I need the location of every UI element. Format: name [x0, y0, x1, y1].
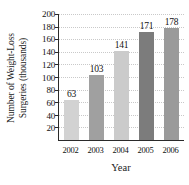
- y-axis-tick-label: 160: [42, 35, 55, 44]
- y-axis-tick-labels: 20018016014012010080604020: [33, 14, 56, 141]
- bar: 103: [89, 75, 105, 140]
- x-axis-title: Year: [58, 162, 184, 174]
- bar-series: 63103141171178: [59, 14, 184, 140]
- bar-value-label: 141: [115, 40, 129, 50]
- y-axis-tick-label: 200: [42, 10, 55, 19]
- y-axis-title: Number of Weight-Loss Surgeries (thousan…: [0, 8, 34, 148]
- plot-area: 63103141171178: [58, 14, 184, 141]
- bar-value-label: 178: [165, 17, 179, 27]
- x-axis-tick-label: 2004: [113, 145, 129, 155]
- bar: 141: [114, 51, 130, 140]
- x-axis-tick-label: 2003: [88, 145, 104, 155]
- y-axis-title-line2: Surgeries (thousands): [17, 33, 29, 123]
- bar: 178: [164, 28, 180, 140]
- bar: 63: [64, 100, 80, 140]
- y-axis-tick-label: 140: [42, 48, 55, 57]
- y-axis-tick-label: 40: [46, 111, 55, 120]
- bar-value-label: 103: [90, 64, 104, 74]
- x-axis-tick-label: 2006: [163, 145, 179, 155]
- x-axis-tick-label: 2002: [63, 145, 79, 155]
- bar-value-label: 171: [140, 21, 154, 31]
- y-axis-tick-label: 80: [46, 86, 55, 95]
- y-axis-tick-label: 120: [42, 60, 55, 69]
- y-axis-title-line1: Number of Weight-Loss: [6, 33, 18, 123]
- x-axis-tick-label: 2005: [138, 145, 154, 155]
- y-axis-tick-label: 100: [42, 73, 55, 82]
- bar-value-label: 63: [67, 89, 76, 99]
- y-axis-tick-label: 180: [42, 22, 55, 31]
- y-axis-tick-label: 20: [46, 124, 55, 133]
- bar-chart-figure: Number of Weight-Loss Surgeries (thousan…: [0, 0, 189, 185]
- y-axis-tick-label: 60: [46, 98, 55, 107]
- bar: 171: [139, 32, 155, 140]
- x-axis-tick-labels: 20022003200420052006: [58, 145, 184, 157]
